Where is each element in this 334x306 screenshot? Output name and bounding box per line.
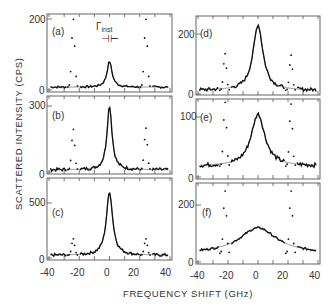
ytick-top-label: 500 xyxy=(29,197,46,208)
panel-label: (d) xyxy=(200,28,212,39)
instrument-width-label: Γinst xyxy=(96,21,112,33)
panel-label: (b) xyxy=(52,110,64,121)
panel-label: (e) xyxy=(200,112,212,123)
ytick-zero-label: 0 xyxy=(188,173,194,184)
xtick-label: 20 xyxy=(128,267,140,278)
xtick-label: 0 xyxy=(104,267,110,278)
ytick-top-label: 300 xyxy=(29,100,46,111)
instrument-width-marker: ⊣⊢ xyxy=(101,33,119,44)
xtick-label: -20 xyxy=(70,267,85,278)
x-tick-labels-left: -40 -20 0 20 40 xyxy=(40,267,172,278)
ytick-zero-label: 0 xyxy=(188,257,194,268)
x-axis-label: FREQUENCY SHIFT (GHz) xyxy=(123,288,253,299)
panel-e: 100 0 (e) xyxy=(180,99,320,184)
panel-a: 200 0 (a) Γinst ⊣⊢ xyxy=(29,14,172,96)
xtick-label: -20 xyxy=(219,270,234,281)
xtick-label: -40 xyxy=(40,267,55,278)
panel-d: 200 0 (d) xyxy=(178,16,320,100)
xtick-label: 40 xyxy=(160,267,172,278)
xtick-label: 40 xyxy=(309,270,321,281)
figure-canvas: SCATTERED INTENSITY (CPS) 200 0 (a) Γins… xyxy=(0,0,334,306)
panel-label: (a) xyxy=(52,26,64,37)
panel-label: (c) xyxy=(52,207,64,218)
ytick-zero-label: 0 xyxy=(188,89,194,100)
ytick-top-label: 200 xyxy=(178,29,195,40)
xtick-label: 0 xyxy=(253,270,259,281)
panel-b: 300 0 (b) xyxy=(29,96,172,180)
x-tick-labels-right: -40 -20 0 20 40 xyxy=(190,270,321,281)
xtick-label: 20 xyxy=(277,270,289,281)
panel-label: (f) xyxy=(202,207,211,218)
panel-c: 500 0 (c) xyxy=(29,178,172,265)
ytick-zero-label: 0 xyxy=(39,85,45,96)
ytick-top-label: 200 xyxy=(29,14,46,25)
ytick-top-label: 100 xyxy=(180,111,197,122)
xtick-label: -40 xyxy=(190,270,205,281)
ytick-zero-label: 0 xyxy=(39,254,45,265)
ytick-top-label: 200 xyxy=(178,199,195,210)
y-axis-label: SCATTERED INTENSITY (CPS) xyxy=(13,58,24,210)
panel-f: 200 0 (f) xyxy=(178,183,320,268)
ytick-zero-label: 0 xyxy=(39,169,45,180)
